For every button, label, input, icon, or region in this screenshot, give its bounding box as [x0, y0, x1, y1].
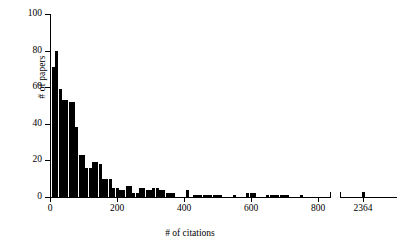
x-tick-mark [117, 198, 118, 202]
x-tick-label: 0 [48, 203, 53, 213]
y-tick-label: 80 [14, 46, 42, 56]
citation-histogram-figure: # of papers 020406080100 020040060080023… [0, 0, 403, 251]
x-tick-mark [251, 198, 252, 202]
y-tick: 20 [0, 160, 42, 161]
x-tick-label: 400 [177, 203, 191, 213]
y-tick: 60 [0, 87, 42, 88]
y-tick-label: 100 [14, 9, 42, 19]
bar [186, 190, 189, 197]
x-tick-mark [318, 198, 319, 202]
x-tick-label: 2364 [354, 203, 373, 213]
x-axis-title: # of citations [50, 228, 330, 238]
x-tick-label: 200 [110, 203, 124, 213]
y-tick-label: 40 [14, 119, 42, 129]
y-tick: 100 [0, 14, 42, 15]
y-tick: 0 [0, 197, 42, 198]
y-tick-label: 0 [14, 192, 42, 202]
x-axis-line-main [50, 197, 330, 198]
x-tick-label: 800 [311, 203, 325, 213]
x-axis-line-outlier [340, 197, 397, 198]
x-tick-mark [184, 198, 185, 202]
bar-series [50, 14, 397, 197]
x-tick-mark [50, 198, 51, 202]
axis-break-cap-left [330, 192, 331, 198]
y-tick-label: 20 [14, 155, 42, 165]
axis-break-cap-right [340, 192, 341, 198]
y-tick: 80 [0, 51, 42, 52]
y-tick-label: 60 [14, 82, 42, 92]
x-tick-mark [363, 198, 364, 202]
y-tick: 40 [0, 124, 42, 125]
x-tick-label: 600 [244, 203, 258, 213]
